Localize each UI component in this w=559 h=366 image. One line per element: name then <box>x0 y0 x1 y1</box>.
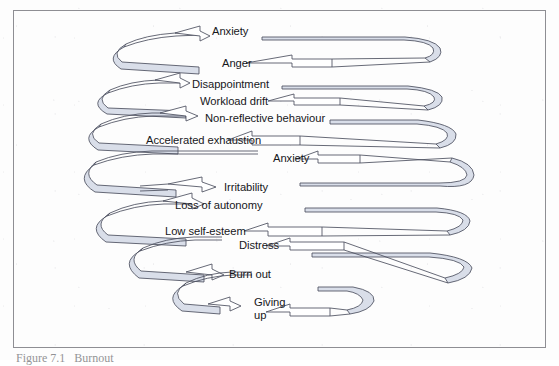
stage-label-burn-out: Burn out <box>229 268 271 280</box>
stage-label-anger: Anger <box>222 57 252 69</box>
stage-label-workload-drift: Workload drift <box>200 95 268 107</box>
stage-label-disappointment: Disappointment <box>192 78 269 90</box>
stage-label-giving-up: Giving up <box>254 296 285 321</box>
stage-label-accelerated-exhaustion: Accelerated exhaustion <box>146 134 261 146</box>
stage-label-anxiety-2: Anxiety <box>273 152 309 164</box>
figure-caption: Figure 7.1 Burnout <box>16 351 114 366</box>
stage-label-low-self-esteem: Low self-esteem <box>165 225 246 237</box>
stage-label-non-reflective-behaviour: Non-reflective behaviour <box>205 112 325 124</box>
stage-label-irritability: Irritability <box>224 181 268 193</box>
stage-label-distress: Distress <box>239 239 279 251</box>
stage-label-anxiety-1: Anxiety <box>212 25 248 37</box>
stage-label-loss-of-autonomy: Loss of autonomy <box>175 199 263 211</box>
